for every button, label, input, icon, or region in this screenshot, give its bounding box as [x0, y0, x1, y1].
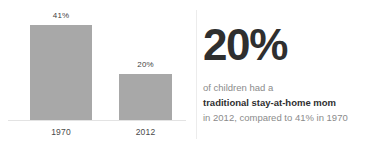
- bar-value-label-2012: 20%: [119, 60, 172, 70]
- bar-value-label-1970: 41%: [30, 11, 92, 21]
- bar-chart: 41% 20% 1970 2012: [0, 0, 196, 149]
- axis-baseline: [8, 120, 186, 121]
- bar-2012: [119, 74, 172, 120]
- callout-line-2: traditional stay-at-home mom: [203, 96, 336, 109]
- callout-panel: 20% of children had a traditional stay-a…: [203, 0, 379, 149]
- callout-line-3: in 2012, compared to 41% in 1970: [203, 111, 348, 124]
- callout-headline: 20%: [203, 21, 287, 69]
- vertical-divider: [196, 10, 197, 139]
- category-label-2012: 2012: [119, 127, 172, 138]
- infographic-root: 41% 20% 1970 2012 20% of children had a …: [0, 0, 379, 149]
- category-label-1970: 1970: [30, 127, 92, 138]
- plot-area: 41% 20% 1970 2012: [0, 0, 196, 149]
- callout-line-1: of children had a: [203, 81, 273, 94]
- bar-1970: [30, 25, 92, 120]
